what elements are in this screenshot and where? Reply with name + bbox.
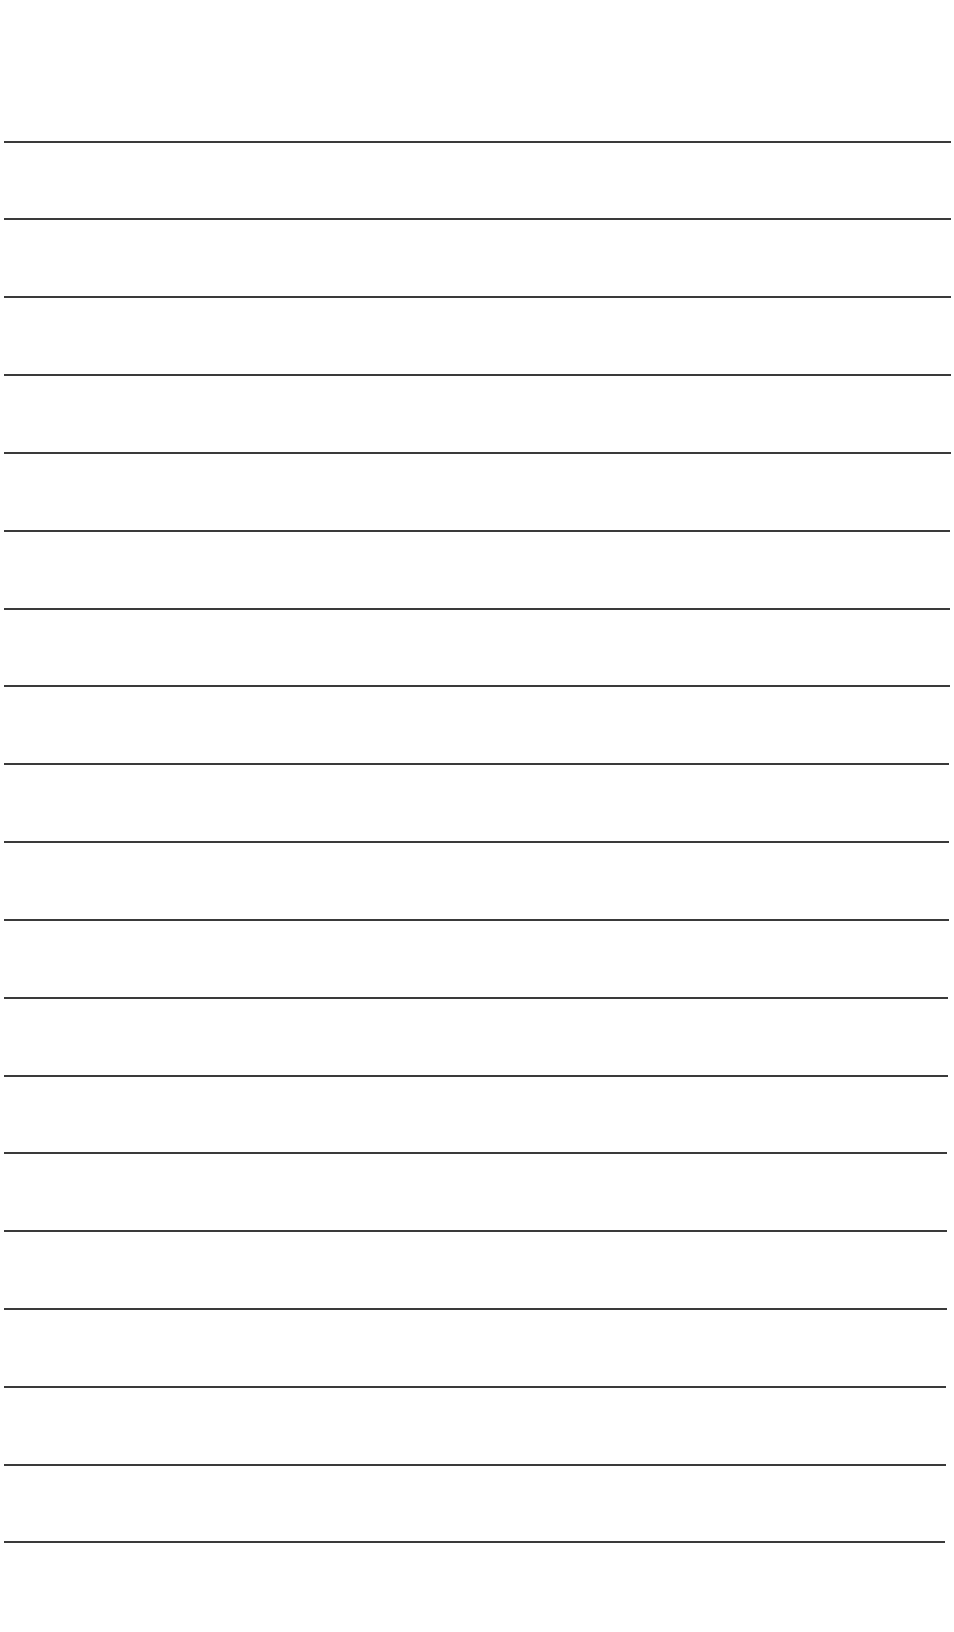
ruled-line — [4, 1541, 945, 1543]
ruled-line — [4, 218, 951, 220]
ruled-line — [4, 1308, 947, 1310]
ruled-line — [4, 296, 951, 298]
ruled-line — [4, 763, 949, 765]
ruled-line — [4, 141, 951, 143]
ruled-line — [4, 1075, 948, 1077]
ruled-line — [4, 1230, 947, 1232]
ruled-line — [4, 685, 950, 687]
ruled-line — [4, 452, 951, 454]
ruled-line — [4, 919, 949, 921]
ruled-line — [4, 997, 948, 999]
ruled-line — [4, 608, 950, 610]
ruled-line — [4, 1152, 947, 1154]
ruled-line — [4, 1464, 946, 1466]
ruled-line — [4, 530, 950, 532]
lined-paper-sheet — [0, 0, 954, 1632]
ruled-line — [4, 1386, 946, 1388]
ruled-line — [4, 374, 951, 376]
ruled-line — [4, 841, 949, 843]
